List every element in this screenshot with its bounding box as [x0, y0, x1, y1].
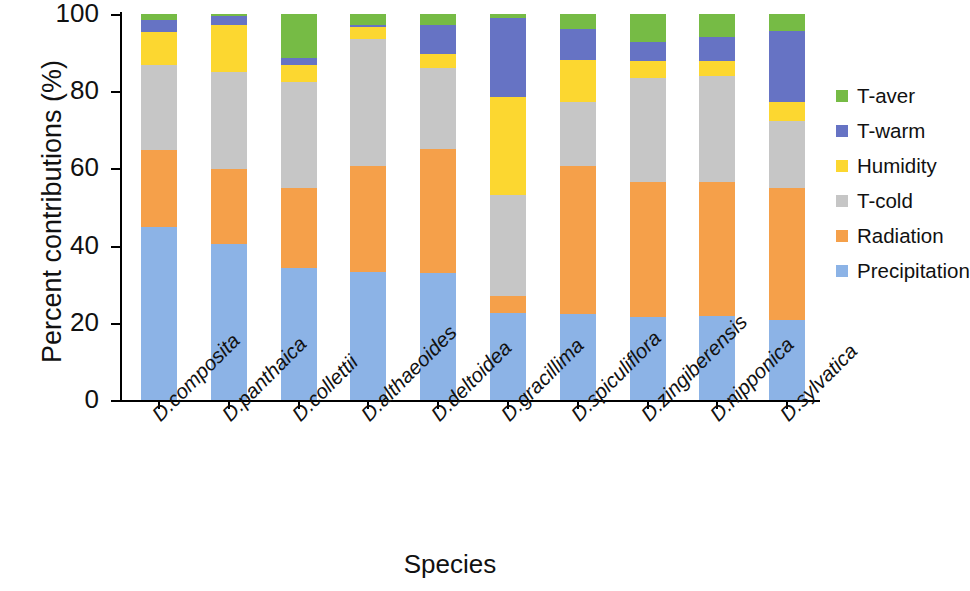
legend-swatch-icon: [836, 265, 848, 277]
x-axis-title: Species: [0, 549, 900, 580]
y-axis-tick: 100: [111, 14, 120, 16]
bar-segment[interactable]: [281, 268, 317, 400]
y-axis-tick: 60: [111, 168, 120, 170]
bar-segment[interactable]: [281, 82, 317, 188]
legend-swatch-icon: [836, 230, 848, 242]
legend-item-label: T-aver: [857, 84, 915, 108]
stacked-bar[interactable]: [141, 14, 177, 400]
bar-segment[interactable]: [699, 182, 735, 316]
bar-segment[interactable]: [630, 14, 666, 42]
bar-segment[interactable]: [560, 166, 596, 314]
y-axis-tick-label: 80: [70, 75, 99, 106]
bar-segment[interactable]: [141, 32, 177, 65]
bar-segment[interactable]: [420, 14, 456, 25]
bar-segment[interactable]: [769, 31, 805, 102]
bar-segment[interactable]: [630, 42, 666, 61]
y-axis-tick: 80: [111, 91, 120, 93]
y-axis-tick: 40: [111, 246, 120, 248]
bar-segment[interactable]: [420, 68, 456, 149]
y-axis-tick-label: 0: [85, 384, 99, 415]
bar-segment[interactable]: [211, 244, 247, 400]
bar-segment[interactable]: [560, 29, 596, 60]
y-axis-tick: 0: [111, 400, 120, 402]
bar-segment[interactable]: [630, 182, 666, 317]
bar-segment[interactable]: [490, 296, 526, 313]
bar-segment[interactable]: [281, 188, 317, 268]
y-axis-tick-label: 60: [70, 152, 99, 183]
legend-item-label: Humidity: [857, 154, 937, 178]
bar-segment[interactable]: [769, 14, 805, 31]
bar-segment[interactable]: [350, 39, 386, 166]
bar-segment[interactable]: [420, 54, 456, 68]
legend-item[interactable]: Radiation: [836, 218, 970, 253]
bar-segment[interactable]: [141, 150, 177, 227]
legend-item-label: Radiation: [857, 224, 944, 248]
bar-segment[interactable]: [211, 72, 247, 169]
y-axis-tick: 20: [111, 323, 120, 325]
bar-segment[interactable]: [211, 169, 247, 244]
bar-segment[interactable]: [350, 272, 386, 400]
bar-segment[interactable]: [560, 60, 596, 103]
legend-item[interactable]: T-warm: [836, 113, 970, 148]
legend-swatch-icon: [836, 125, 848, 137]
bar-segment[interactable]: [281, 65, 317, 82]
legend-item-label: Precipitation: [857, 259, 970, 283]
y-axis-tick-label: 20: [70, 307, 99, 338]
bar-segment[interactable]: [769, 121, 805, 188]
y-axis-title: Percent contributions (%): [37, 12, 68, 412]
bar-segment[interactable]: [699, 76, 735, 182]
stacked-bar[interactable]: [350, 14, 386, 400]
legend-swatch-icon: [836, 90, 848, 102]
bar-segment[interactable]: [211, 25, 247, 72]
y-axis-tick-label: 40: [70, 229, 99, 260]
y-axis-line: [120, 12, 122, 402]
bar-segment[interactable]: [769, 102, 805, 121]
bar-segment[interactable]: [211, 16, 247, 25]
bar-segment[interactable]: [699, 37, 735, 61]
bar-segment[interactable]: [560, 14, 596, 29]
legend-item[interactable]: Humidity: [836, 148, 970, 183]
bar-segment[interactable]: [420, 149, 456, 273]
bar-segment[interactable]: [141, 20, 177, 32]
legend-item[interactable]: T-aver: [836, 78, 970, 113]
bar-segment[interactable]: [350, 14, 386, 25]
bar-segment[interactable]: [630, 78, 666, 182]
bar-segment[interactable]: [141, 227, 177, 400]
bar-segment[interactable]: [699, 61, 735, 76]
legend-item[interactable]: Precipitation: [836, 253, 970, 288]
bar-segment[interactable]: [281, 14, 317, 58]
legend-swatch-icon: [836, 195, 848, 207]
y-axis-tick-label: 100: [56, 0, 99, 29]
legend-item[interactable]: T-cold: [836, 183, 970, 218]
plot-area: 020406080100 D.compositaD.panthaicaD.col…: [120, 14, 818, 400]
bar-segment[interactable]: [630, 61, 666, 77]
bar-segment[interactable]: [490, 97, 526, 195]
bar-segment[interactable]: [699, 14, 735, 37]
bar-segment[interactable]: [350, 27, 386, 39]
bar-segment[interactable]: [350, 166, 386, 272]
bar-segment[interactable]: [560, 102, 596, 166]
legend-item-label: T-warm: [857, 119, 925, 143]
legend-item-label: T-cold: [857, 189, 913, 213]
bar-segment[interactable]: [420, 25, 456, 54]
chart-legend: T-averT-warmHumidityT-coldRadiationPreci…: [836, 78, 970, 288]
bar-segment[interactable]: [490, 195, 526, 296]
bar-segment[interactable]: [769, 188, 805, 320]
bar-segment[interactable]: [141, 65, 177, 150]
bar-segment[interactable]: [490, 18, 526, 98]
legend-swatch-icon: [836, 160, 848, 172]
